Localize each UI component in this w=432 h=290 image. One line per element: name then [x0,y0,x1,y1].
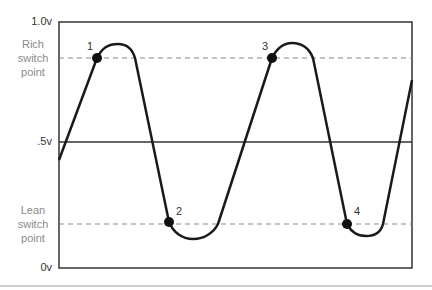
switch-point-3-label: 3 [262,40,268,52]
lean-switch-label: Lean switch point [7,203,59,245]
y-label-bottom: 0v [12,261,52,273]
switch-point-3-dot [267,53,277,63]
y-label-mid: .5v [12,135,52,147]
rich-switch-label: Rich switch point [7,37,59,79]
lean-label-line3: point [7,231,59,245]
switch-point-1-dot [92,53,102,63]
plot-frame [59,22,412,268]
rich-label-line3: point [7,65,59,79]
waveform-plot [0,0,432,290]
o2-sensor-waveform-figure: 1.0v .5v 0v Rich switch point Lean switc… [0,0,432,290]
rich-label-line1: Rich [7,37,59,51]
switch-point-4-label: 4 [354,205,360,217]
switch-point-1-label: 1 [87,40,93,52]
switch-point-4-dot [342,219,352,229]
lean-label-line1: Lean [7,203,59,217]
bottom-divider [0,285,432,287]
y-label-top: 1.0v [12,15,52,27]
rich-label-line2: switch [7,51,59,65]
lean-label-line2: switch [7,217,59,231]
switch-point-2-dot [164,217,174,227]
switch-point-2-label: 2 [176,205,182,217]
